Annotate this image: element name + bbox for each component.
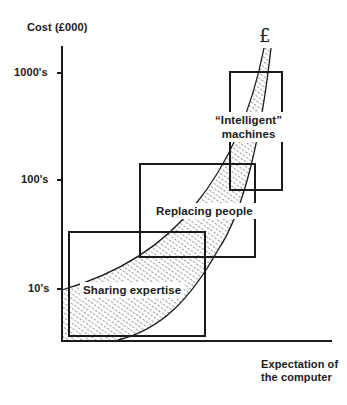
x-axis-title-line1: Expectation of xyxy=(261,358,338,371)
x-axis-title: Expectation of the computer xyxy=(261,358,338,384)
pound-symbol: £ xyxy=(259,25,271,46)
label-intelligent-line1: “Intelligent” xyxy=(215,113,282,127)
label-sharing-expertise: Sharing expertise xyxy=(80,282,184,298)
tick-label-10s: 10's xyxy=(28,282,49,294)
tick-label-100s: 100's xyxy=(21,173,49,185)
label-replacing-people: Replacing people xyxy=(153,203,256,219)
tick-label-1000s: 1000's xyxy=(14,66,48,78)
label-intelligent-machines: “Intelligent” machines xyxy=(212,112,285,142)
x-axis-title-line2: the computer xyxy=(261,371,338,384)
y-axis-title: Cost (£000) xyxy=(27,21,87,33)
label-intelligent-line2: machines xyxy=(215,127,282,141)
